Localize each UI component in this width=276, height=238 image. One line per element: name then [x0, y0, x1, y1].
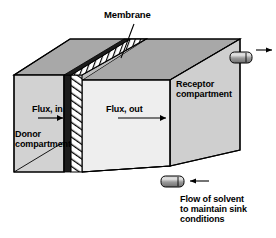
flux-out-label: Flux, out: [106, 104, 143, 114]
diagram-canvas: Membrane Flux, in Flux, out Donor compar…: [0, 0, 276, 238]
outlet-port-tube: [230, 52, 252, 63]
flux-in-label: Flux, in: [32, 104, 63, 114]
inlet-flow-arrow-icon: [190, 179, 209, 184]
membrane-front-hatch: [71, 75, 82, 172]
inlet-port-tube: [161, 176, 184, 187]
membrane-label: Membrane: [104, 10, 151, 21]
membrane-front-dark-strip: [64, 75, 71, 172]
inner-front-face: [82, 80, 170, 172]
receptor-compartment-label: Receptor compartment: [176, 79, 232, 99]
outlet-flow-arrow-icon: [256, 48, 272, 53]
flow-of-solvent-label: Flow of solvent to maintain sink conditi…: [180, 194, 247, 224]
donor-compartment-label: Donor compartment: [15, 129, 71, 149]
